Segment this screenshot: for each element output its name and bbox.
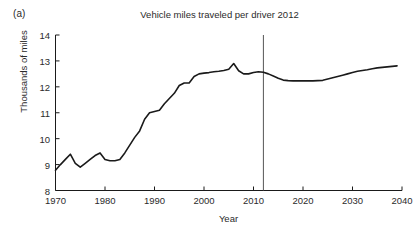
y-tick-label: 14 (30, 30, 50, 41)
figure-container: (a) Vehicle miles traveled per driver 20… (0, 0, 417, 237)
x-tick-label: 1990 (144, 195, 165, 206)
y-tick-label: 10 (30, 133, 50, 144)
tick-marks (56, 35, 403, 191)
x-tick-label: 2040 (391, 195, 412, 206)
x-tick-label: 2010 (243, 195, 264, 206)
y-tick-label: 11 (30, 107, 50, 118)
x-tick-label: 1980 (94, 195, 115, 206)
x-tick-label: 2030 (342, 195, 363, 206)
data-series-line (56, 64, 398, 171)
x-tick-label: 2000 (193, 195, 214, 206)
y-tick-label: 13 (30, 55, 50, 66)
x-tick-label: 1970 (45, 195, 66, 206)
y-tick-label: 12 (30, 81, 50, 92)
x-tick-label: 2020 (292, 195, 313, 206)
y-tick-label: 9 (30, 159, 50, 170)
